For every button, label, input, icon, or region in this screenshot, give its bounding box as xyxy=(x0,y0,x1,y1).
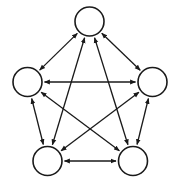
complete-graph-diagram xyxy=(0,0,175,194)
node-top xyxy=(75,7,104,36)
edge-arrow-top-left xyxy=(40,33,78,70)
edge-arrow-right-bottom-right xyxy=(137,99,148,145)
node-left xyxy=(13,68,42,97)
nodes-group xyxy=(13,7,167,176)
edge-arrow-left-bottom-left xyxy=(32,98,44,144)
edges-group xyxy=(32,33,149,161)
edge-arrow-top-right xyxy=(102,33,140,70)
node-bottom-right xyxy=(119,147,148,176)
node-bottom-left xyxy=(33,147,62,176)
node-right xyxy=(138,68,167,97)
